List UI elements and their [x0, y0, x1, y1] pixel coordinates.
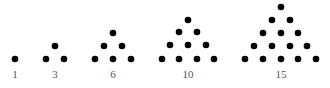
dot — [278, 30, 285, 37]
triangle-figure-1: 1 — [12, 56, 19, 80]
triangle-figure-6: 6 — [92, 30, 135, 80]
dot — [101, 43, 108, 50]
figure-label: 10 — [183, 68, 195, 80]
dot — [12, 56, 19, 63]
triangle-figure-3: 3 — [43, 43, 68, 80]
dot — [260, 56, 267, 63]
dot — [295, 56, 302, 63]
dot — [176, 56, 183, 63]
dot — [203, 42, 210, 49]
dot — [159, 56, 166, 63]
dot — [43, 56, 50, 63]
dot — [260, 30, 267, 37]
figure-label: 6 — [110, 68, 116, 80]
dot — [269, 43, 276, 50]
dot — [61, 56, 68, 63]
dot — [110, 30, 117, 37]
triangular-numbers-diagram: 1361015 — [0, 0, 330, 88]
dot — [251, 43, 258, 50]
dot — [194, 29, 201, 36]
figure-label: 1 — [12, 68, 18, 80]
dot — [211, 56, 218, 63]
dot — [242, 56, 249, 63]
dot — [269, 17, 276, 24]
dot — [110, 56, 117, 63]
dot — [119, 43, 126, 50]
dot — [295, 30, 302, 37]
dot — [278, 4, 285, 11]
dot — [167, 42, 174, 49]
dot — [278, 56, 285, 63]
dot — [313, 56, 320, 63]
dot — [185, 17, 192, 24]
dot — [52, 43, 59, 50]
figure-label: 3 — [52, 68, 58, 80]
dot — [287, 43, 294, 50]
figure-label: 15 — [276, 68, 288, 80]
triangle-figure-15: 15 — [242, 4, 320, 80]
dot — [185, 42, 192, 49]
dot — [304, 43, 311, 50]
triangle-figure-10: 10 — [159, 17, 218, 80]
dot — [92, 56, 99, 63]
dot — [176, 29, 183, 36]
dot — [287, 17, 294, 24]
dot — [128, 56, 135, 63]
dot — [194, 56, 201, 63]
